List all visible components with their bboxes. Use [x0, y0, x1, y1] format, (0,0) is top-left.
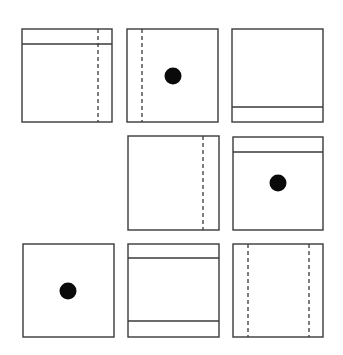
- cell-r3-c1: [23, 244, 114, 337]
- cell-r1-c3: [232, 29, 323, 122]
- cell-r2-c3: [233, 137, 323, 230]
- cell-r3-c3: [233, 244, 323, 337]
- black-dot: [60, 283, 77, 300]
- cell-r1-c1: [22, 29, 112, 122]
- pattern-matrix: [0, 0, 343, 355]
- cell-border: [128, 136, 219, 230]
- cell-border: [232, 29, 323, 122]
- cell-r3-c2: [128, 244, 219, 337]
- black-dot: [270, 175, 287, 192]
- cell-r2-c2: [128, 136, 219, 230]
- cell-r1-c2: [127, 29, 218, 122]
- black-dot: [165, 68, 182, 85]
